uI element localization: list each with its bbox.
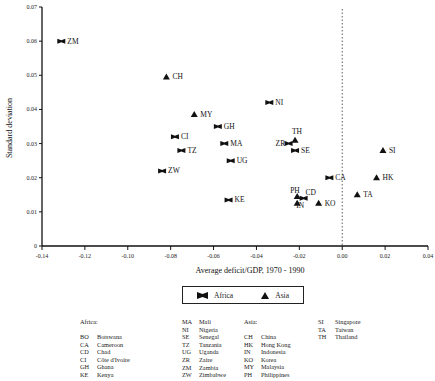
legend: Africa Asia bbox=[182, 286, 304, 304]
point-label: CI bbox=[181, 132, 189, 141]
y-tick-label: 0.07 bbox=[27, 4, 38, 10]
key-name: Malaysia bbox=[261, 363, 284, 371]
key-name: Chad bbox=[97, 348, 110, 356]
key-name: Senegal bbox=[199, 333, 219, 341]
key-row: ZRZaire bbox=[182, 356, 226, 364]
data-points: ZMNIGHCIMATZZRSEUGZWCACDKECHMYTHSIHKTAPH… bbox=[57, 37, 396, 211]
bowtie-marker-icon bbox=[57, 39, 65, 44]
key-name: Zimbabwe bbox=[199, 371, 226, 379]
key-name: Taiwan bbox=[335, 326, 353, 334]
key-africa-title: Africa: bbox=[80, 318, 130, 333]
x-tick-label: -0.08 bbox=[164, 253, 177, 259]
key-code: CD bbox=[80, 348, 97, 356]
key-row: KOKorea bbox=[244, 356, 291, 364]
point-label: SI bbox=[389, 146, 396, 155]
legend-label-asia: Asia bbox=[275, 291, 289, 300]
y-tick-label: 0 bbox=[34, 243, 37, 249]
key-code: ZW bbox=[182, 371, 199, 379]
key-row: INIndonesia bbox=[244, 348, 291, 356]
key-name: Botswana bbox=[97, 333, 122, 341]
point-label: NI bbox=[275, 98, 283, 107]
key-name: China bbox=[261, 333, 276, 341]
key-code: GH bbox=[80, 363, 97, 371]
x-tick-label: 0.02 bbox=[380, 253, 391, 259]
key-asia-col1: Asia: CHChinaHKHong KongINIndonesiaKOKor… bbox=[244, 318, 291, 379]
x-tick-label: -0.12 bbox=[79, 253, 92, 259]
scatter-chart: 00.010.020.030.040.050.060.07-0.14-0.12-… bbox=[0, 0, 435, 285]
key-name: Indonesia bbox=[261, 348, 285, 356]
x-tick-label: 0.00 bbox=[337, 253, 348, 259]
data-point-ca: CA bbox=[325, 173, 346, 182]
point-label: TH bbox=[292, 127, 303, 136]
point-label: KO bbox=[325, 199, 336, 208]
data-point-th: TH bbox=[292, 127, 303, 143]
triangle-marker-icon bbox=[261, 292, 269, 299]
key-code: KE bbox=[80, 371, 97, 379]
y-tick-label: 0.01 bbox=[27, 209, 38, 215]
key-row: CDChad bbox=[80, 348, 130, 356]
data-point-ke: KE bbox=[225, 195, 245, 204]
key-name: Mali bbox=[199, 318, 211, 326]
key-row: CICôte d'Ivoire bbox=[80, 356, 130, 364]
point-label: TZ bbox=[187, 146, 197, 155]
point-label: TA bbox=[363, 190, 373, 199]
key-row: ZMZambia bbox=[182, 364, 226, 372]
data-point-ni: NI bbox=[265, 98, 283, 107]
key-code: SI bbox=[318, 318, 335, 326]
key-code: MY bbox=[244, 363, 261, 371]
bowtie-marker-icon bbox=[227, 158, 235, 163]
key-code: ZM bbox=[182, 364, 199, 372]
key-row: MAMali bbox=[182, 318, 226, 326]
point-label: KE bbox=[235, 195, 245, 204]
bowtie-marker-icon bbox=[291, 148, 299, 153]
key-name: Korea bbox=[261, 356, 276, 364]
data-point-zr: ZR bbox=[276, 139, 293, 148]
legend-label-africa: Africa bbox=[214, 291, 233, 300]
bowtie-marker-icon bbox=[285, 141, 293, 146]
key-asia-title: Asia: bbox=[244, 318, 291, 333]
data-point-cd: CD bbox=[300, 188, 317, 201]
bowtie-marker-icon bbox=[325, 175, 333, 180]
key-code: PH bbox=[244, 371, 261, 379]
y-axis-title: Standard deviation bbox=[5, 98, 14, 158]
key-name: Cameroon bbox=[97, 341, 123, 349]
key-name: Nigeria bbox=[199, 326, 218, 334]
point-label: PH bbox=[290, 186, 300, 195]
key-code: TH bbox=[318, 333, 335, 341]
data-point-ta: TA bbox=[354, 190, 373, 199]
y-tick-label: 0.02 bbox=[27, 175, 38, 181]
bowtie-marker-icon bbox=[214, 124, 222, 129]
key-name: Zaire bbox=[199, 356, 212, 364]
y-tick-label: 0.05 bbox=[27, 72, 38, 78]
point-label: CH bbox=[172, 72, 183, 81]
data-point-gh: GH bbox=[214, 122, 235, 131]
point-label: SE bbox=[301, 146, 310, 155]
x-tick-label: -0.04 bbox=[250, 253, 263, 259]
key-code: KO bbox=[244, 356, 261, 364]
point-label: HK bbox=[383, 173, 394, 182]
data-point-ci: CI bbox=[171, 132, 189, 141]
key-name: Hong Kong bbox=[261, 341, 291, 349]
data-point-zw: ZW bbox=[158, 166, 181, 175]
key-code: TZ bbox=[182, 341, 199, 349]
key-row: BOBotswana bbox=[80, 333, 130, 341]
key-row: TATaiwan bbox=[318, 326, 361, 334]
axes: 00.010.020.030.040.050.060.07-0.14-0.12-… bbox=[27, 4, 434, 259]
key-name: Singapore bbox=[335, 318, 361, 326]
key-africa-col1: Africa: BOBotswanaCACameroonCDChadCICôte… bbox=[80, 318, 130, 379]
key-row: CACameroon bbox=[80, 341, 130, 349]
data-point-in: IN bbox=[294, 200, 305, 211]
key-row: THThailand bbox=[318, 333, 361, 341]
key-code: CA bbox=[80, 341, 97, 349]
x-tick-label: -0.02 bbox=[293, 253, 306, 259]
bowtie-marker-icon bbox=[158, 168, 166, 173]
triangle-marker-icon bbox=[163, 73, 170, 79]
key-code: MA bbox=[182, 318, 199, 326]
key-row: ZWZimbabwe bbox=[182, 371, 226, 379]
point-label: UG bbox=[237, 156, 248, 165]
triangle-marker-icon bbox=[292, 137, 299, 143]
key-asia-col2: SISingaporeTATaiwanTHThailand bbox=[318, 318, 361, 341]
point-label: CD bbox=[306, 188, 317, 197]
key-code: IN bbox=[244, 348, 261, 356]
y-tick-label: 0.06 bbox=[27, 38, 38, 44]
